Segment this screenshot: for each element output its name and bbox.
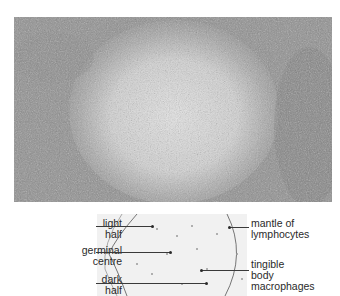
label-germinal-centre: germinal centre xyxy=(56,245,122,267)
label-dark-half: dark half xyxy=(80,274,122,296)
leader-dark-half xyxy=(96,283,206,284)
pointer-dark-half xyxy=(205,282,208,285)
pointer-mantle xyxy=(228,226,231,229)
leader-tingible-body xyxy=(201,270,249,271)
leader-mantle xyxy=(229,227,249,228)
follicle-micrograph xyxy=(14,17,332,202)
label-tingible-body-macrophages: tingible body macrophages xyxy=(251,259,315,292)
leader-light-half xyxy=(96,226,152,227)
leader-germinal-centre xyxy=(96,252,170,253)
pointer-germinal-centre xyxy=(169,251,172,254)
pointer-light-half xyxy=(151,225,154,228)
pointer-tingible-body xyxy=(200,269,203,272)
label-light-half: light half xyxy=(80,218,122,240)
label-mantle-of-lymphocytes: mantle of lymphocytes xyxy=(251,218,309,240)
